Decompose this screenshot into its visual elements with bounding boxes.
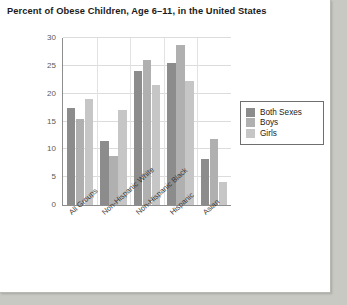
plot-area (62, 38, 231, 206)
bar-chart: 051015202530 All GroupsNon-Hispanic Whit… (0, 0, 330, 292)
legend-swatch (246, 118, 255, 127)
legend-label: Boys (260, 118, 278, 127)
y-axis-label: 25 (30, 61, 56, 70)
legend-item: Boys (246, 118, 318, 127)
category-divider (97, 38, 98, 205)
legend-item: Both Sexes (246, 108, 318, 117)
category-divider (164, 38, 165, 205)
page-sheet: Percent of Obese Children, Age 6–11, in … (0, 0, 331, 293)
bar (67, 108, 76, 205)
category-divider (197, 38, 198, 205)
legend-swatch (246, 129, 255, 138)
legend-label: Girls (260, 129, 277, 138)
legend-swatch (246, 108, 255, 117)
bar (143, 60, 152, 205)
bar (100, 141, 109, 205)
legend-item: Girls (246, 129, 318, 138)
category-divider (130, 38, 131, 205)
bar (201, 159, 210, 205)
bar (76, 119, 85, 205)
y-axis-label: 30 (30, 33, 56, 42)
y-axis-label: 10 (30, 144, 56, 153)
bar (219, 182, 228, 205)
y-axis-label: 15 (30, 117, 56, 126)
legend-label: Both Sexes (260, 108, 302, 117)
bar (210, 139, 219, 205)
bar (185, 81, 194, 205)
gridline (63, 37, 231, 38)
y-axis-label: 5 (30, 172, 56, 181)
y-axis-label: 0 (30, 200, 56, 209)
chart-legend: Both SexesBoysGirls (240, 101, 324, 145)
y-axis-label: 20 (30, 89, 56, 98)
